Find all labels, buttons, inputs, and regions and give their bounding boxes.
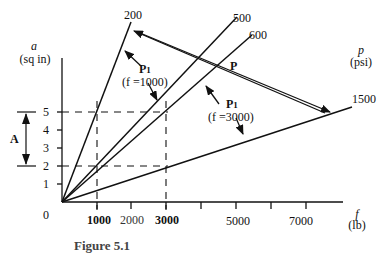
y-tick-2: 2 bbox=[43, 160, 49, 172]
p1-f1000-label: P1 bbox=[139, 63, 151, 75]
p-axis-unit: (psi) bbox=[347, 56, 375, 68]
origin-label: 0 bbox=[43, 209, 49, 221]
y-tick-4: 4 bbox=[43, 124, 49, 136]
x-tick-3000: 3000 bbox=[155, 214, 179, 226]
figure-caption: Figure 5.1 bbox=[74, 239, 130, 252]
line-label-1500: 1500 bbox=[352, 93, 376, 105]
y-tick-5: 5 bbox=[43, 106, 49, 118]
line-label-200: 200 bbox=[124, 9, 142, 21]
line-label-500: 500 bbox=[233, 12, 251, 24]
p1-f1000-condition: (f =1000) bbox=[122, 76, 168, 88]
x-tick-7000: 7000 bbox=[289, 215, 313, 227]
x-axis-unit: (lb) bbox=[343, 219, 371, 231]
p1-f3000-label: P1 bbox=[226, 98, 238, 110]
p1-f3000-condition: (f =3000) bbox=[208, 111, 254, 123]
x-tick-1000: 1000 bbox=[87, 214, 111, 226]
y-tick-1: 1 bbox=[43, 178, 49, 190]
y-axis-var: a bbox=[27, 40, 41, 52]
y-tick-3: 3 bbox=[43, 142, 49, 154]
range-a-label: A bbox=[10, 133, 19, 145]
y-axis-unit: (sq in) bbox=[15, 53, 55, 65]
line-p1500 bbox=[62, 107, 352, 202]
x-tick-5000: 5000 bbox=[226, 215, 250, 227]
line-label-600: 600 bbox=[249, 29, 267, 41]
x-tick-2000: 2000 bbox=[120, 214, 144, 226]
point-p-label: P bbox=[230, 60, 237, 72]
